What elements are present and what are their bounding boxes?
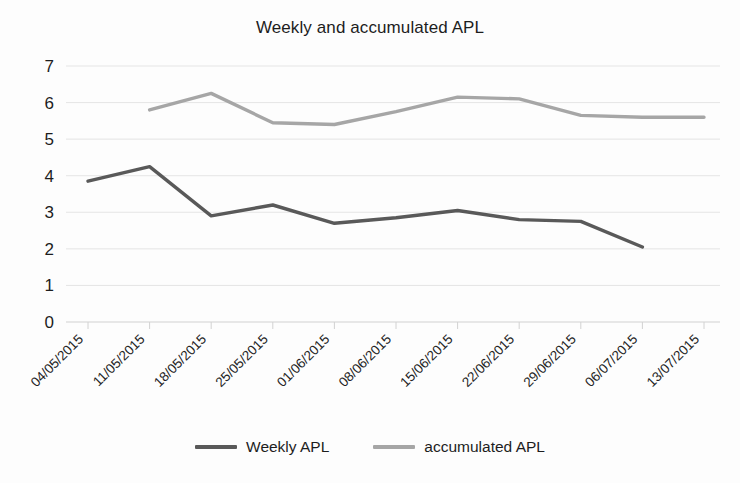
- legend-color-swatch: [195, 445, 237, 449]
- x-axis-tick-labels: 04/05/201511/05/201518/05/201525/05/2015…: [28, 332, 702, 390]
- chart-plot-area: 01234567 04/05/201511/05/201518/05/20152…: [0, 0, 740, 440]
- legend-color-swatch: [373, 445, 415, 449]
- x-axis-tick-label: 11/05/2015: [90, 332, 148, 390]
- y-axis-tick-label: 2: [45, 240, 54, 259]
- y-axis-tick-label: 6: [45, 94, 54, 113]
- x-axis-tick-label: 01/06/2015: [274, 332, 332, 390]
- x-axis-tick-label: 04/05/2015: [28, 332, 86, 390]
- y-axis-tick-label: 7: [45, 57, 54, 76]
- chart-container: Weekly and accumulated APL 01234567 04/0…: [0, 0, 740, 483]
- x-axis-ticks: [88, 322, 704, 329]
- series-line: [150, 93, 704, 124]
- data-series-lines: [88, 93, 704, 247]
- x-axis-tick-label: 22/06/2015: [459, 332, 517, 390]
- x-axis-tick-label: 25/05/2015: [213, 332, 271, 390]
- legend-item[interactable]: Weekly APL: [195, 438, 329, 456]
- y-axis-tick-label: 0: [45, 313, 54, 332]
- x-axis-tick-label: 15/06/2015: [397, 332, 455, 390]
- x-axis-tick-label: 08/06/2015: [336, 332, 394, 390]
- x-axis-tick-label: 29/06/2015: [521, 332, 579, 390]
- y-axis-tick-label: 5: [45, 130, 54, 149]
- x-axis-tick-label: 18/05/2015: [151, 332, 209, 390]
- chart-legend: Weekly APLaccumulated APL: [0, 438, 740, 456]
- y-axis-tick-label: 1: [45, 276, 54, 295]
- x-axis-tick-label: 13/07/2015: [644, 332, 702, 390]
- series-line: [88, 167, 642, 247]
- legend-item[interactable]: accumulated APL: [373, 438, 545, 456]
- legend-label: accumulated APL: [424, 438, 545, 456]
- y-axis-tick-label: 3: [45, 203, 54, 222]
- y-axis-tick-label: 4: [45, 167, 54, 186]
- x-axis-tick-label: 06/07/2015: [582, 332, 640, 390]
- legend-label: Weekly APL: [246, 438, 329, 456]
- y-axis-tick-labels: 01234567: [45, 57, 54, 332]
